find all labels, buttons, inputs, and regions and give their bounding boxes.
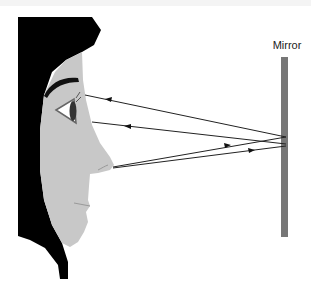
arrow-icon [248,148,255,153]
ray-to-eye-upper [85,95,286,137]
ray-to-eye-lower [92,122,286,144]
ray-from-nose-1 [113,137,286,167]
arrow-icon [105,97,112,102]
mirror-label: Mirror [268,39,306,51]
ray-from-nose-2 [113,146,286,168]
iris-shape [70,101,77,121]
mirror-reflection-diagram [0,0,311,289]
arrow-icon [124,124,131,129]
